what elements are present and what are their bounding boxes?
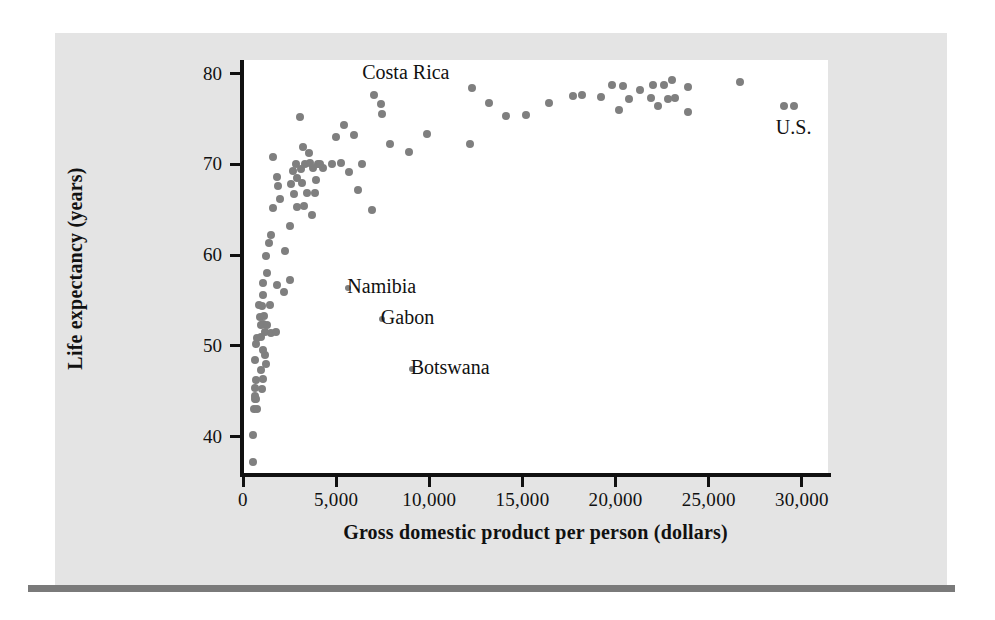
data-point <box>258 385 266 393</box>
data-point <box>660 81 668 89</box>
annotation-label: Costa Rica <box>362 61 449 84</box>
data-point <box>466 140 474 148</box>
data-point <box>253 405 261 413</box>
data-point <box>259 291 267 299</box>
data-point <box>269 153 277 161</box>
data-point <box>350 131 358 139</box>
data-point <box>569 92 577 100</box>
annotated-data-point <box>371 92 377 98</box>
bottom-rule <box>28 585 955 592</box>
annotated-data-point <box>781 103 787 109</box>
data-point <box>251 392 259 400</box>
data-point <box>619 82 627 90</box>
data-point <box>684 108 692 116</box>
y-axis-tick-label: 50 <box>176 335 222 357</box>
data-point <box>502 112 510 120</box>
data-point <box>377 100 385 108</box>
data-point <box>276 195 284 203</box>
data-point <box>286 222 294 230</box>
data-point <box>280 288 288 296</box>
data-point <box>386 140 394 148</box>
data-point <box>337 159 345 167</box>
x-axis-tick <box>428 477 431 487</box>
y-axis-tick-label: 70 <box>176 153 222 175</box>
x-axis-tick-label: 10,000 <box>402 489 456 511</box>
data-point <box>328 160 336 168</box>
x-axis-tick <box>521 477 524 487</box>
x-axis-tick-label: 25,000 <box>682 489 736 511</box>
data-point <box>305 149 313 157</box>
data-point <box>258 302 266 310</box>
data-point <box>262 252 270 260</box>
data-point <box>273 281 281 289</box>
data-point <box>249 458 257 466</box>
y-axis-tick-label: 60 <box>176 244 222 266</box>
data-point <box>272 328 280 336</box>
annotation-label: Namibia <box>347 275 416 298</box>
data-point <box>316 160 324 168</box>
x-axis-tick-label: 5,000 <box>314 489 358 511</box>
y-axis-tick-label: 40 <box>176 426 222 448</box>
data-point <box>281 247 289 255</box>
data-point <box>340 121 348 129</box>
data-point <box>259 279 267 287</box>
x-axis-tick-label: 0 <box>238 489 248 511</box>
x-axis-tick-label: 15,000 <box>495 489 549 511</box>
y-axis-tick <box>230 254 241 257</box>
x-axis-tick <box>800 477 803 487</box>
data-point <box>368 206 376 214</box>
data-point <box>260 312 268 320</box>
y-axis-tick-label: 80 <box>176 63 222 85</box>
data-point <box>684 83 692 91</box>
data-point <box>654 102 662 110</box>
data-point <box>405 148 413 156</box>
annotation-label: U.S. <box>776 116 812 139</box>
y-axis-tick <box>230 344 241 347</box>
data-point <box>273 173 281 181</box>
data-point <box>259 375 267 383</box>
data-point <box>358 160 366 168</box>
data-point <box>649 81 657 89</box>
data-point <box>671 94 679 102</box>
data-point <box>263 269 271 277</box>
data-point <box>522 111 530 119</box>
data-point <box>636 86 644 94</box>
y-axis-tick <box>230 435 241 438</box>
data-point <box>251 356 259 364</box>
data-point <box>267 231 275 239</box>
data-point <box>378 110 386 118</box>
data-point <box>262 360 270 368</box>
data-point <box>263 321 271 329</box>
data-point <box>332 133 340 141</box>
x-axis-tick-label: 20,000 <box>589 489 643 511</box>
x-axis-line <box>240 473 831 477</box>
data-point <box>545 99 553 107</box>
data-point <box>259 346 267 354</box>
y-axis-tick-labels: 4050607080 <box>170 0 222 620</box>
data-point <box>249 431 257 439</box>
x-axis-title: Gross domestic product per person (dolla… <box>243 521 828 544</box>
annotation-label: Gabon <box>381 306 434 329</box>
x-axis-tick <box>707 477 710 487</box>
data-point <box>625 95 633 103</box>
data-point <box>647 94 655 102</box>
data-point <box>485 99 493 107</box>
data-point <box>300 202 308 210</box>
data-point <box>423 130 431 138</box>
data-point <box>299 143 307 151</box>
data-point <box>296 113 304 121</box>
data-point <box>345 168 353 176</box>
annotation-label: Botswana <box>411 356 490 379</box>
data-point <box>668 76 676 84</box>
data-point <box>578 91 586 99</box>
y-axis-line <box>240 60 244 477</box>
data-point <box>311 189 319 197</box>
x-axis-tick <box>335 477 338 487</box>
data-point <box>266 301 274 309</box>
data-point <box>312 176 320 184</box>
data-point <box>736 78 744 86</box>
y-axis-tick <box>230 163 241 166</box>
y-axis-tick <box>230 72 241 75</box>
data-point <box>597 93 605 101</box>
y-axis-title: Life expectancy (years) <box>64 119 87 419</box>
